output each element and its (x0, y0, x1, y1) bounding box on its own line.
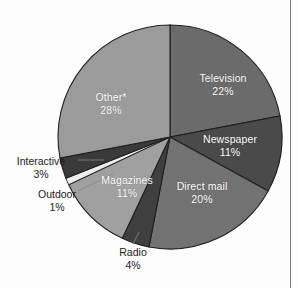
callout-label-interactive: Interactive 3% (4, 155, 78, 180)
pie-chart-figure: Television 22% Newspaper 11% Direct mail… (0, 0, 298, 288)
slice-label-television: Television 22% (186, 72, 260, 97)
slice-label-magazines-pct: 11% (92, 187, 162, 200)
slice-label-television-pct: 22% (186, 85, 260, 98)
slice-label-other-name: Other* (96, 91, 127, 103)
slice-label-magazines-name: Magazines (101, 174, 153, 186)
slice-label-television-name: Television (199, 72, 246, 84)
page-border-rule (290, 0, 291, 288)
callout-label-interactive-name: Interactive (17, 155, 65, 167)
slice-label-other: Other* 28% (82, 91, 140, 116)
callout-label-outdoor-name: Outdoor (38, 188, 76, 200)
slice-label-direct-mail-name: Direct mail (177, 180, 228, 192)
callout-label-interactive-pct: 3% (4, 168, 78, 181)
callout-label-radio-name: Radio (119, 246, 146, 258)
slice-label-other-pct: 28% (82, 104, 140, 117)
slice-label-newspaper-pct: 11% (192, 146, 268, 159)
slice-label-direct-mail-pct: 20% (164, 193, 240, 206)
slice-label-newspaper-name: Newspaper (203, 133, 257, 145)
callout-label-outdoor-pct: 1% (26, 201, 88, 214)
callout-label-outdoor: Outdoor 1% (26, 188, 88, 213)
callout-label-radio: Radio 4% (106, 246, 160, 271)
slice-label-newspaper: Newspaper 11% (192, 133, 268, 158)
callout-label-radio-pct: 4% (106, 259, 160, 272)
slice-label-magazines: Magazines 11% (92, 174, 162, 199)
slice-label-direct-mail: Direct mail 20% (164, 180, 240, 205)
